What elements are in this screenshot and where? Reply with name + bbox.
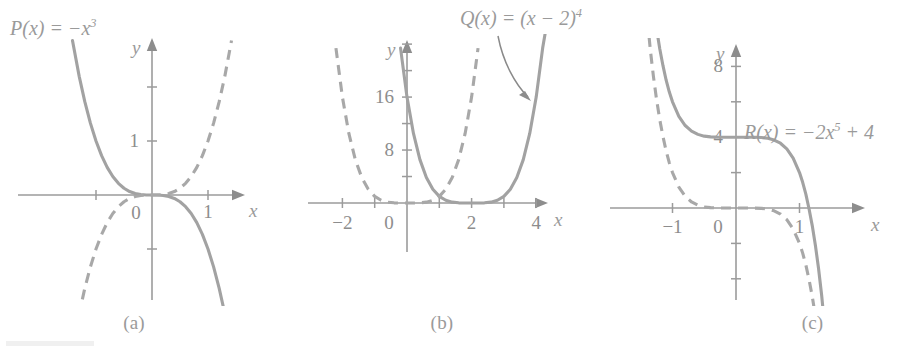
equation-label-r-text: R(x) = −2x	[744, 121, 834, 143]
y-axis-arrow	[147, 38, 157, 51]
x-tick-label: 4	[531, 212, 541, 233]
equation-label-r-suffix: + 4	[841, 121, 875, 143]
panel-b-plot: xy−2248160	[300, 0, 600, 346]
equation-label-q-text: Q(x) = (x − 2)	[460, 7, 576, 29]
panel-c-plot: xy−11480	[600, 0, 913, 346]
x-axis-name: x	[870, 214, 880, 235]
caption-b: (b)	[292, 312, 592, 334]
x-tick-label: −2	[332, 212, 352, 233]
y-axis-name: y	[130, 37, 141, 58]
panel-a-plot: xy110	[0, 0, 300, 346]
origin-label: 0	[131, 202, 141, 223]
caption-a: (a)	[0, 312, 284, 334]
x-axis-name: x	[553, 209, 563, 230]
panel-a: xy110 P(x) = −x3 (a)	[0, 0, 300, 346]
x-tick-label: −1	[662, 216, 682, 237]
x-axis-arrow	[535, 198, 548, 208]
equation-label-p-exponent: 3	[90, 16, 96, 30]
x-tick-label: 2	[467, 212, 477, 233]
y-tick-label: 8	[385, 139, 395, 160]
y-axis-arrow	[402, 40, 412, 53]
y-tick-label: 16	[375, 86, 394, 107]
x-axis-arrow	[232, 190, 245, 200]
panel-b: xy−2248160 (b)	[300, 0, 600, 346]
equation-label-q-exponent: 4	[576, 6, 582, 20]
equation-label-r: R(x) = −2x5 + 4	[744, 122, 874, 142]
origin-label: 0	[713, 216, 723, 237]
y-tick-label: 1	[130, 130, 140, 151]
x-axis-arrow	[852, 203, 865, 213]
equation-label-p-text: P(x) = −x	[10, 17, 90, 39]
polynomial-graphs-figure: xy110 P(x) = −x3 (a) xy−2248160 (b) xy−1…	[0, 0, 913, 346]
panel-c: xy−11480 (c)	[600, 0, 913, 346]
y-axis-name: y	[385, 39, 396, 60]
caption-c: (c)	[656, 312, 913, 334]
x-tick-label: 1	[203, 201, 213, 222]
page-bottom-mark	[6, 341, 94, 346]
equation-label-p: P(x) = −x3	[10, 18, 97, 38]
y-tick-label: 8	[714, 55, 724, 76]
y-axis-arrow	[731, 44, 741, 57]
function-curve-solid-b	[401, 18, 548, 203]
origin-label: 0	[384, 212, 394, 233]
x-axis-name: x	[248, 200, 258, 221]
reference-curve-dashed-c	[646, 3, 819, 339]
equation-label-q: Q(x) = (x − 2)4	[460, 8, 582, 28]
